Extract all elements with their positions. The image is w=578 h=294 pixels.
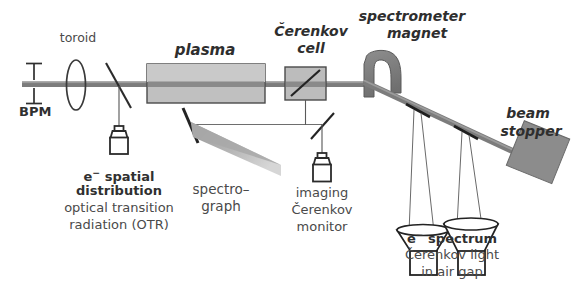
label-beam-stopper-line2: stopper [500,124,561,140]
imaging-cerenkov-camera [313,153,331,182]
diagram-canvas: toroid BPM plasma Čerenkov cell spectrom… [0,0,578,294]
label-spectrograph-line1: spectro– [193,182,250,197]
spectrograph-wedge [191,122,281,176]
label-spectrometer-line2: magnet [387,26,447,42]
label-spectrum-line2: Čerenkov light [405,248,499,263]
label-beam-stopper-line1: beam [506,106,550,122]
cerenkov-cell [285,67,326,100]
label-spectrum-line1: e− spectrum [407,230,497,247]
plasma-cell [147,64,265,103]
otr-camera [110,126,128,154]
detector-1-light-cone [409,110,434,232]
label-otr-line3: optical transition [64,201,174,216]
label-imaging-line1: imaging [296,186,349,201]
label-spectrometer-line1: spectrometer [359,9,466,25]
label-imaging-line3: monitor [297,220,348,235]
spectrum-word: spectrum [428,231,497,246]
label-spectrum-line3: in air gap [421,265,483,280]
label-otr-line4: radiation (OTR) [69,218,169,233]
label-spectrograph-line2: graph [201,199,241,214]
label-otr-line2: distribution [76,184,162,199]
beamline-deflected [364,81,521,156]
spectrum-minus-superscript: − [416,229,424,240]
label-bpm: BPM [19,105,51,120]
label-plasma: plasma [175,42,236,59]
spectrum-e-symbol: e [407,231,416,246]
label-cerenkov-cell-line1: Čerenkov [274,24,348,40]
detector-2-light-cone [457,132,482,226]
otr-minus-superscript: − [92,167,100,178]
label-cerenkov-cell-line2: cell [297,41,324,57]
label-imaging-line2: Čerenkov [291,203,352,218]
label-toroid: toroid [60,31,96,45]
